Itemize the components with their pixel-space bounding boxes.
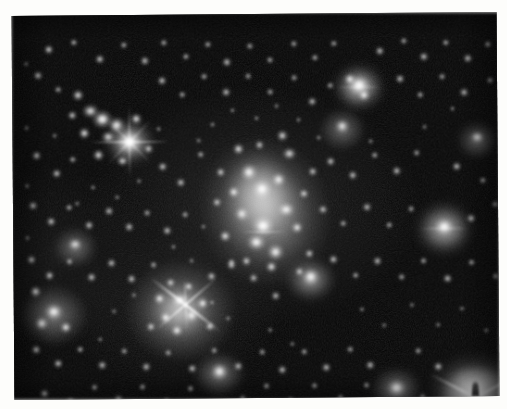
point-source: [483, 40, 492, 49]
point-source: [107, 116, 125, 134]
point-source: [162, 225, 173, 236]
point-source: [145, 321, 156, 332]
point-source: [110, 308, 117, 315]
point-source: [113, 394, 124, 400]
point-source: [94, 54, 105, 65]
point-source: [433, 361, 444, 372]
diffraction-spike: [107, 120, 151, 163]
point-source: [71, 89, 84, 102]
point-source: [343, 73, 356, 86]
point-source: [462, 53, 473, 64]
point-source: [282, 147, 297, 160]
galaxy-halo: [284, 256, 336, 302]
point-source: [289, 39, 298, 48]
point-source: [74, 200, 81, 207]
point-source: [39, 388, 50, 399]
point-source: [221, 87, 232, 98]
point-source: [186, 384, 195, 393]
point-source: [196, 150, 205, 159]
point-source: [365, 360, 376, 371]
point-source: [408, 301, 415, 308]
point-source: [210, 346, 219, 355]
point-source: [200, 72, 209, 81]
point-source: [69, 38, 78, 47]
point-source: [339, 219, 348, 228]
point-source: [86, 272, 97, 283]
point-source: [346, 345, 355, 354]
plate-edge-vignette: [11, 12, 499, 400]
point-source: [321, 362, 332, 373]
point-source: [181, 210, 190, 219]
galaxy-halo: [145, 277, 214, 343]
point-source: [419, 256, 428, 265]
point-source: [126, 273, 137, 284]
point-source: [265, 260, 278, 273]
point-source: [76, 345, 85, 354]
point-source: [227, 258, 236, 267]
point-source: [120, 347, 129, 356]
point-source: [43, 44, 54, 55]
point-source: [229, 107, 236, 114]
point-source: [117, 131, 141, 153]
point-source: [486, 76, 495, 85]
diffraction-spike: [429, 371, 499, 400]
point-source: [203, 40, 212, 49]
point-source: [307, 96, 318, 107]
point-source: [101, 130, 116, 143]
point-source: [491, 272, 499, 281]
point-source: [325, 156, 336, 167]
point-source: [65, 203, 74, 212]
point-source: [391, 165, 402, 176]
point-source: [124, 221, 135, 232]
galaxy-halo: [193, 351, 245, 397]
point-source: [381, 322, 388, 329]
point-source: [267, 327, 274, 334]
point-source: [215, 167, 226, 178]
point-source: [178, 90, 187, 99]
point-source: [315, 134, 322, 141]
point-source: [438, 72, 447, 81]
point-source: [295, 116, 302, 123]
point-source: [412, 148, 421, 157]
point-source: [458, 305, 465, 312]
point-source: [302, 268, 320, 286]
point-source: [442, 273, 453, 284]
diffraction-spike: [155, 278, 217, 332]
point-source: [470, 131, 485, 144]
point-source: [34, 316, 50, 332]
point-source: [24, 234, 31, 241]
sky-field: [11, 12, 499, 400]
point-source: [114, 194, 121, 201]
photograph-page: Black-and-white astronomical photograph …: [0, 0, 507, 409]
diffraction-spike: [241, 231, 285, 233]
point-source: [27, 200, 38, 211]
point-source: [459, 87, 470, 98]
point-source: [68, 155, 77, 164]
point-source: [54, 85, 63, 94]
point-source: [143, 208, 152, 217]
point-source: [241, 256, 252, 267]
point-source: [233, 361, 244, 372]
point-source: [271, 172, 287, 188]
point-source: [81, 104, 99, 120]
point-source: [347, 170, 358, 181]
point-source: [135, 178, 142, 185]
point-source: [466, 213, 477, 224]
point-source: [290, 73, 299, 82]
point-source: [159, 38, 168, 47]
point-source: [252, 179, 272, 199]
point-source: [181, 52, 190, 61]
point-source: [200, 223, 207, 230]
point-source: [407, 204, 416, 213]
diffraction-spike: [429, 372, 500, 400]
point-source: [225, 315, 232, 322]
point-source: [421, 123, 428, 130]
point-source: [26, 254, 37, 265]
point-source: [329, 39, 338, 48]
diffraction-spike: [89, 141, 169, 144]
point-source: [143, 143, 154, 154]
point-source: [265, 55, 274, 64]
point-source: [397, 272, 406, 281]
point-source: [156, 75, 167, 86]
point-source: [195, 137, 202, 144]
